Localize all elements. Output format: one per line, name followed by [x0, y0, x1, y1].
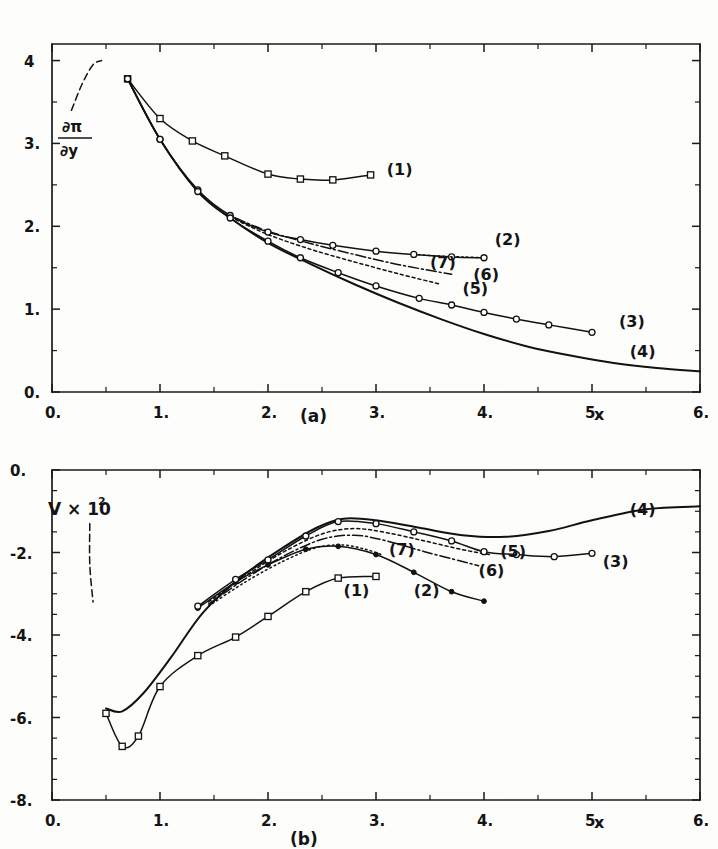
- data-point-marker: [411, 570, 416, 575]
- panel-b-plot: 0.1.2.3.4.5.6.-8.-6.-4.-2.0. (1)(2)(3)(4…: [0, 440, 718, 849]
- y-tick-label: -8.: [10, 792, 32, 810]
- x-tick-label: 0.: [45, 404, 61, 422]
- data-point-marker: [335, 519, 341, 525]
- panel-a: 0.1.2.3.4.5.6.0.1.2.3.4 (1)(2)(7)(6)(5)(…: [0, 0, 718, 440]
- curve-label: (1): [344, 581, 370, 600]
- data-point-marker: [135, 733, 141, 739]
- y-tick-label: 0.: [24, 384, 40, 402]
- curve-label: (1): [387, 160, 413, 179]
- x-tick-label: 4.: [477, 404, 493, 422]
- data-point-marker: [303, 547, 308, 552]
- panel-a-curves: [71, 61, 700, 372]
- data-point-marker: [373, 283, 379, 289]
- x-tick-label: 4.: [477, 812, 493, 830]
- curve-1: [106, 576, 376, 747]
- panel-a-curve-labels: (1)(2)(7)(6)(5)(3)(4): [387, 160, 656, 361]
- data-point-marker: [374, 552, 379, 557]
- panel-b-y-axis-label: V × 10 2: [48, 495, 111, 519]
- curve-label: (3): [603, 552, 629, 571]
- x-tick-label: 2.: [261, 812, 277, 830]
- data-point-marker: [103, 710, 109, 716]
- data-point-marker: [513, 316, 519, 322]
- data-point-marker: [449, 302, 455, 308]
- data-point-marker: [449, 538, 455, 544]
- x-tick-label: 3.: [369, 812, 385, 830]
- y-tick-label: 0.: [10, 462, 26, 480]
- data-point-marker: [481, 549, 487, 555]
- data-point-marker: [265, 238, 271, 244]
- data-point-marker: [303, 589, 309, 595]
- y-axis-numerator: ∂π: [62, 118, 82, 136]
- panel-a-axes: [52, 44, 700, 392]
- data-point-marker: [373, 248, 379, 254]
- x-tick-label: 1.: [153, 404, 169, 422]
- curve-label: (3): [619, 312, 645, 331]
- y-tick-label: -6.: [10, 710, 32, 728]
- y-tick-label: -2.: [10, 545, 32, 563]
- curve-label: (4): [630, 500, 656, 519]
- data-point-marker: [416, 295, 422, 301]
- curve-label: (7): [430, 253, 456, 272]
- data-point-marker: [368, 172, 374, 178]
- data-point-marker: [330, 242, 336, 248]
- x-tick-label: 3.: [369, 404, 385, 422]
- data-point-marker: [227, 215, 233, 221]
- data-point-marker: [297, 255, 303, 261]
- data-point-marker: [189, 138, 195, 144]
- curve-1: [128, 79, 371, 180]
- data-point-marker: [482, 599, 487, 604]
- curve-label: (2): [414, 581, 440, 600]
- y-axis-denominator: ∂y: [60, 142, 78, 160]
- data-point-marker: [265, 613, 271, 619]
- curve-3: [128, 79, 592, 333]
- data-point-marker: [297, 176, 303, 182]
- data-point-marker: [546, 322, 552, 328]
- data-point-marker: [303, 533, 309, 539]
- data-point-marker: [297, 237, 303, 243]
- data-point-marker: [335, 270, 341, 276]
- data-point-marker: [195, 603, 201, 609]
- data-point-marker: [265, 229, 271, 235]
- data-point-marker: [481, 255, 487, 261]
- x-tick-label: 6.: [693, 404, 709, 422]
- data-point-marker: [157, 683, 163, 689]
- data-point-marker: [265, 557, 271, 563]
- data-point-marker: [551, 554, 557, 560]
- data-point-marker: [481, 309, 487, 315]
- data-point-marker: [233, 634, 239, 640]
- panel-a-x-axis-name: x: [594, 405, 605, 424]
- curve-6: [236, 218, 452, 274]
- y-tick-label: -4.: [10, 627, 32, 645]
- data-point-marker: [373, 521, 379, 527]
- panel-a-tick-labels: 0.1.2.3.4.5.6.0.1.2.3.4: [24, 53, 709, 422]
- data-point-marker: [195, 188, 201, 194]
- data-point-marker: [157, 136, 163, 142]
- y-axis-exponent: 2: [98, 495, 106, 508]
- y-tick-label: 4: [24, 53, 34, 71]
- figure-container: 0.1.2.3.4.5.6.0.1.2.3.4 (1)(2)(7)(6)(5)(…: [0, 0, 718, 849]
- data-point-marker: [330, 177, 336, 183]
- data-point-marker: [336, 544, 341, 549]
- curve-lead-in-dashed: [71, 61, 101, 111]
- data-point-marker: [195, 653, 201, 659]
- data-point-marker: [265, 171, 271, 177]
- curve-label: (5): [462, 279, 488, 298]
- x-tick-label: 1.: [153, 812, 169, 830]
- y-tick-label: 3.: [24, 135, 40, 153]
- y-tick-label: 1.: [24, 301, 40, 319]
- y-tick-label: 2.: [24, 218, 40, 236]
- data-point-marker: [125, 76, 131, 82]
- data-point-marker: [589, 329, 595, 335]
- data-point-marker: [335, 575, 341, 581]
- panel-b-x-axis-name: x: [594, 813, 605, 832]
- data-point-marker: [157, 115, 163, 121]
- panel-b-curve-labels: (1)(2)(3)(4)(5)(6)(7): [344, 500, 656, 599]
- panel-a-y-axis-label: ∂π ∂y: [58, 118, 92, 160]
- data-point-marker: [222, 153, 228, 159]
- data-point-marker: [589, 550, 595, 556]
- x-tick-label: 6.: [693, 812, 709, 830]
- curve-label: (7): [389, 540, 415, 559]
- x-tick-label: 2.: [261, 404, 277, 422]
- data-point-marker: [411, 529, 417, 535]
- curve-label: (4): [630, 342, 656, 361]
